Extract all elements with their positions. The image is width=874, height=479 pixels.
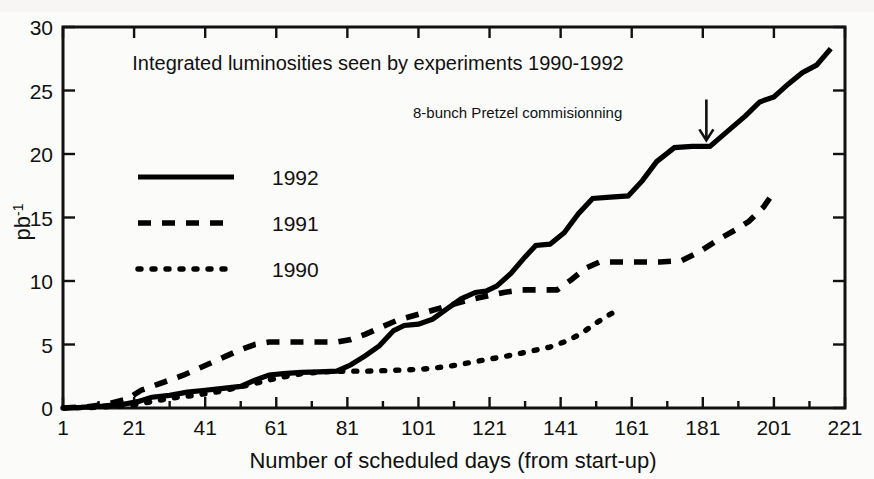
y-tick-label: 0 — [41, 397, 53, 420]
legend-label-1990: 1990 — [272, 258, 319, 281]
legend-label-1991: 1991 — [272, 212, 319, 235]
x-axis-ticks — [63, 27, 845, 408]
luminosity-line-chart: 121416181101121141161181201221 051015202… — [0, 0, 874, 479]
x-tick-label: 101 — [401, 416, 436, 439]
x-tick-label: 141 — [543, 416, 578, 439]
x-tick-label: 81 — [336, 416, 359, 439]
chart-legend: 199219911990 — [138, 166, 319, 281]
chart-page: 121416181101121141161181201221 051015202… — [0, 0, 874, 479]
x-axis-title: Number of scheduled days (from start-up) — [249, 448, 656, 473]
legend-label-1992: 1992 — [272, 166, 319, 189]
y-axis-title-base: pb — [10, 216, 35, 240]
x-tick-label: 181 — [685, 416, 720, 439]
y-axis-ticks — [63, 27, 845, 408]
data-series-group — [63, 49, 831, 408]
y-axis-title-exponent: -1 — [10, 203, 26, 216]
annotation-label: 8-bunch Pretzel commisionning — [413, 104, 622, 121]
x-tick-label: 201 — [756, 416, 791, 439]
x-axis-tick-labels: 121416181101121141161181201221 — [57, 416, 862, 439]
x-tick-label: 121 — [472, 416, 507, 439]
x-tick-label: 21 — [122, 416, 145, 439]
y-tick-label: 25 — [30, 80, 53, 103]
x-tick-label: 61 — [265, 416, 288, 439]
series-1992 — [63, 49, 831, 408]
y-tick-label: 5 — [41, 334, 53, 357]
y-tick-label: 30 — [30, 16, 53, 39]
y-tick-label: 10 — [30, 270, 53, 293]
down-arrow-icon — [699, 99, 713, 140]
plot-frame — [63, 27, 845, 408]
y-tick-label: 20 — [30, 143, 53, 166]
chart-title: Integrated luminosities seen by experime… — [132, 52, 623, 74]
x-tick-label: 41 — [194, 416, 217, 439]
x-tick-label: 1 — [57, 416, 69, 439]
x-tick-label: 221 — [827, 416, 862, 439]
series-1990 — [63, 309, 621, 408]
x-tick-label: 161 — [614, 416, 649, 439]
